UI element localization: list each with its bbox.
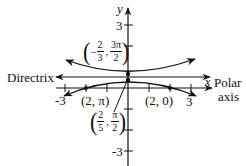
x-axis-label: x [205,76,210,88]
point-2-pi [84,86,88,90]
point-2-0-label: (2, 0) [145,94,173,107]
vertex-top-label: ( − 23 , 3π2 ) [83,40,129,63]
x-tick-3: 3 [186,95,193,108]
vertex-bottom-label: ( 25 , π2 ) [90,110,126,133]
directrix-label: Directrix [7,71,54,84]
y-tick-3: 3 [116,19,123,32]
axis-label: axis [218,90,239,103]
y-tick-neg3: -3 [112,145,123,158]
x-tick-neg3: -3 [55,94,66,107]
y-axis-label: y [117,2,123,15]
point-2-pi-label: (2, π) [81,94,109,107]
vertex-top-point [126,72,130,76]
point-2-0 [168,86,172,90]
polar-label: Polar [214,76,241,89]
